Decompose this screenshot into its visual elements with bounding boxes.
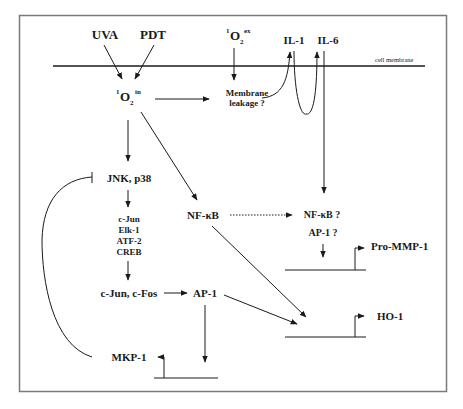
membrane-leakage-line2: leakage ? — [229, 98, 265, 108]
svg-text:O: O — [120, 89, 130, 104]
ap1-label: AP-1 — [193, 287, 217, 299]
ap1-to-ho1-arrow — [224, 295, 297, 324]
svg-text:in: in — [135, 88, 141, 96]
svg-text:ex: ex — [244, 27, 251, 35]
nfkb-label: NF-κB — [187, 209, 219, 221]
nfkb-to-ho1-arrow — [212, 226, 306, 317]
il1-to-il6-loop-arrow — [294, 51, 317, 114]
membrane-leakage-line1: Membrane — [226, 88, 269, 98]
singlet-oxygen-extracellular: 1 O 2 ex — [226, 27, 251, 46]
tf-atf2: ATF-2 — [117, 236, 142, 246]
singlet-oxygen-intracellular: 1 O 2 in — [116, 88, 141, 107]
pro-mmp1-label: Pro-MMP-1 — [371, 240, 428, 252]
ho1-tss-arrow — [355, 316, 364, 337]
figure-frame — [20, 16, 447, 392]
tf-creb: CREB — [116, 247, 141, 257]
mkp1-label: MKP-1 — [112, 351, 147, 363]
uva-label: UVA — [92, 27, 119, 42]
mkp1-gene: MKP-1 — [112, 351, 218, 378]
pro-mmp1-gene: Pro-MMP-1 — [285, 240, 428, 270]
svg-text:2: 2 — [240, 38, 244, 46]
o2in-to-nfkb-arrow — [141, 112, 197, 200]
il1-label: IL-1 — [284, 34, 305, 46]
ap1-question-label: AP-1 ? — [308, 227, 337, 238]
cell-membrane-label: cell membrane — [375, 56, 414, 63]
pro-mmp1-tss-arrow — [355, 248, 364, 270]
mkp1-tss-arrow — [158, 357, 164, 378]
svg-text:O: O — [230, 28, 240, 43]
signaling-pathway-diagram: cell membrane UVA PDT 1 O 2 ex 1 O 2 in … — [0, 0, 463, 409]
svg-text:2: 2 — [130, 99, 134, 107]
jnk-p38-label: JNK, p38 — [107, 172, 152, 184]
cjun-cfos-label: c-Jun, c-Fos — [101, 287, 159, 299]
il6-label: IL-6 — [318, 34, 339, 46]
ho1-label: HO-1 — [377, 310, 403, 322]
nfkb-question-label: NF-κB ? — [304, 209, 340, 220]
mkp1-inhibits-jnk-path — [42, 177, 92, 357]
transcription-factor-list: c-Jun Elk-1 ATF-2 CREB — [116, 214, 141, 257]
tf-cjun: c-Jun — [118, 214, 140, 224]
uva-to-o2in-arrow — [104, 45, 122, 79]
pdt-to-o2in-arrow — [135, 45, 154, 79]
pdt-label: PDT — [140, 27, 166, 42]
tf-elk1: Elk-1 — [118, 225, 140, 235]
